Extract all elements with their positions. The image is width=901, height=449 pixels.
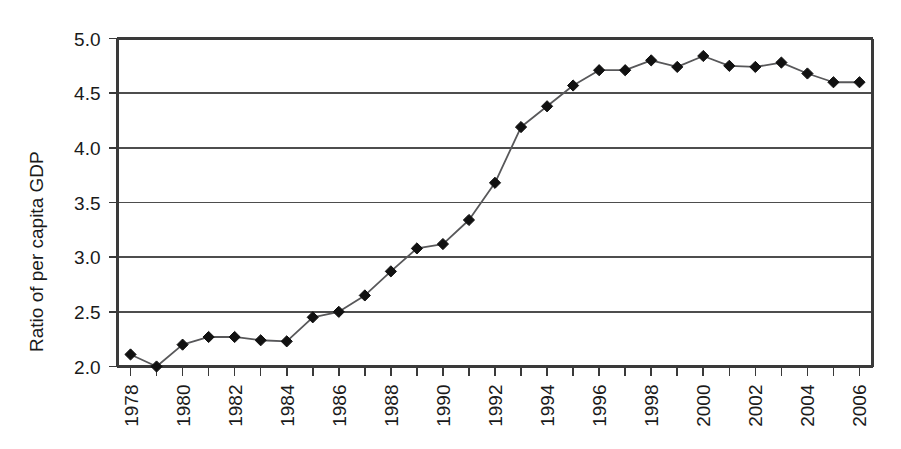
- data-point-marker: [724, 60, 735, 71]
- data-markers-group: [125, 50, 865, 372]
- data-point-marker: [203, 331, 214, 342]
- x-axis-tick-label: 1982: [225, 385, 246, 427]
- data-point-marker: [802, 68, 813, 79]
- data-point-marker: [229, 331, 240, 342]
- data-point-marker: [750, 61, 761, 72]
- data-point-marker: [594, 65, 605, 76]
- x-axis-tick-label: 2004: [797, 384, 818, 427]
- x-axis-tick-label: 1984: [277, 384, 298, 427]
- x-axis-tick-label: 2000: [693, 385, 714, 427]
- data-point-marker: [255, 335, 266, 346]
- x-axis-tick-label: 1990: [433, 385, 454, 427]
- y-axis-tick-label: 3.0: [74, 247, 100, 268]
- y-axis-title: Ratio of per capita GDP: [26, 151, 47, 352]
- data-point-marker: [125, 349, 136, 360]
- x-axis-ticks-group: [131, 367, 860, 376]
- y-axis-tick-label: 4.5: [74, 83, 100, 104]
- x-axis-tick-label: 2006: [849, 385, 870, 427]
- gridlines-group: [118, 93, 873, 312]
- data-point-marker: [828, 77, 839, 88]
- x-axis-tick-label: 1994: [537, 384, 558, 427]
- data-point-marker: [854, 77, 865, 88]
- y-axis-tick-label: 2.0: [74, 357, 100, 378]
- x-axis-tick-label: 1992: [485, 385, 506, 427]
- data-point-marker: [672, 61, 683, 72]
- data-point-marker: [333, 306, 344, 317]
- x-axis-tick-label: 1996: [589, 385, 610, 427]
- y-axis-tick-label: 4.0: [74, 138, 100, 159]
- x-axis-tick-label: 1986: [329, 385, 350, 427]
- x-axis-tick-label: 2002: [745, 385, 766, 427]
- x-axis-tick-label: 1980: [173, 385, 194, 427]
- x-axis-tick-label: 1998: [641, 385, 662, 427]
- data-point-marker: [646, 55, 657, 66]
- series-line: [131, 56, 860, 367]
- data-point-marker: [489, 177, 500, 188]
- x-axis-tick-label: 1978: [121, 385, 142, 427]
- chart-figure: 2.02.53.03.54.04.55.0 197819801982198419…: [0, 0, 901, 449]
- data-point-marker: [620, 65, 631, 76]
- y-axis-tick-label: 3.5: [74, 193, 100, 214]
- y-axis-tick-label: 5.0: [74, 29, 100, 50]
- x-axis-tick-label: 1988: [381, 385, 402, 427]
- y-axis-tick-labels: 2.02.53.03.54.04.55.0: [74, 29, 100, 378]
- data-series-group: [131, 56, 860, 367]
- line-chart: 2.02.53.03.54.04.55.0 197819801982198419…: [0, 0, 901, 449]
- y-axis-ticks-group: [109, 39, 118, 367]
- data-point-marker: [698, 50, 709, 61]
- x-axis-tick-labels: 1978198019821984198619881990199219941996…: [121, 384, 871, 427]
- y-axis-tick-label: 2.5: [74, 302, 100, 323]
- data-point-marker: [776, 57, 787, 68]
